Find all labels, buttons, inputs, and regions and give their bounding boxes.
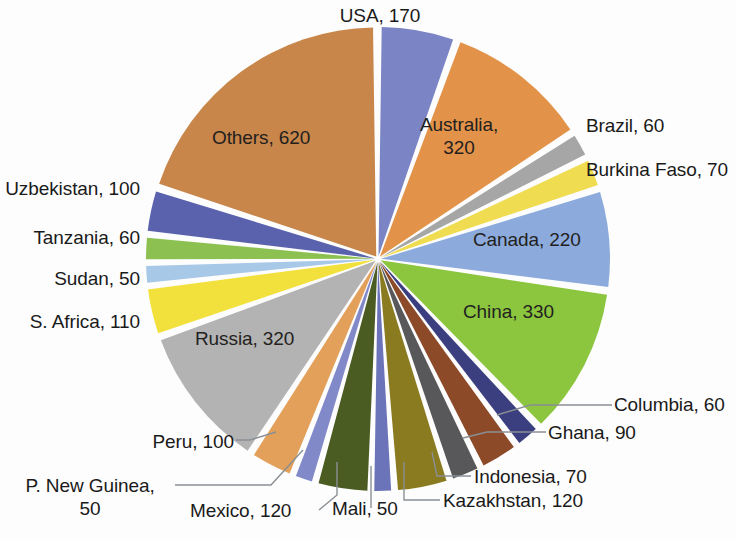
slice-label-canada: Canada, 220 bbox=[473, 228, 581, 251]
pie-slice-group bbox=[146, 27, 610, 491]
slice-label-ghana: Ghana, 90 bbox=[548, 421, 636, 444]
slice-label-sudan: Sudan, 50 bbox=[0, 267, 140, 290]
slice-label-peru: Peru, 100 bbox=[86, 430, 234, 453]
slice-label-kazakhstan: Kazakhstan, 120 bbox=[443, 489, 583, 512]
slice-label-australia-line2: 320 bbox=[399, 136, 519, 159]
slice-label-brazil: Brazil, 60 bbox=[586, 114, 664, 137]
slice-label-russia: Russia, 320 bbox=[195, 327, 294, 350]
slice-label-mali: Mali, 50 bbox=[332, 497, 398, 520]
slice-label-s-africa: S. Africa, 110 bbox=[0, 310, 140, 333]
slice-label-uzbekistan: Uzbekistan, 100 bbox=[0, 177, 140, 200]
slice-label-australia-line1: Australia, bbox=[399, 113, 519, 136]
slice-label-png-line1: P. New Guinea, bbox=[10, 474, 170, 497]
slice-label-columbia: Columbia, 60 bbox=[614, 393, 725, 416]
slice-label-indonesia: Indonesia, 70 bbox=[474, 465, 587, 488]
slice-label-usa: USA, 170 bbox=[300, 4, 460, 27]
pie-chart-figure: USA, 170 Australia, 320 Brazil, 60 Burki… bbox=[0, 0, 736, 540]
slice-label-china: China, 330 bbox=[463, 300, 554, 323]
slice-label-burkina-faso: Burkina Faso, 70 bbox=[586, 158, 728, 181]
slice-label-mexico: Mexico, 120 bbox=[190, 499, 291, 522]
slice-label-tanzania: Tanzania, 60 bbox=[0, 226, 140, 249]
slice-label-others: Others, 620 bbox=[212, 126, 310, 149]
slice-label-png-line2: 50 bbox=[10, 497, 170, 520]
